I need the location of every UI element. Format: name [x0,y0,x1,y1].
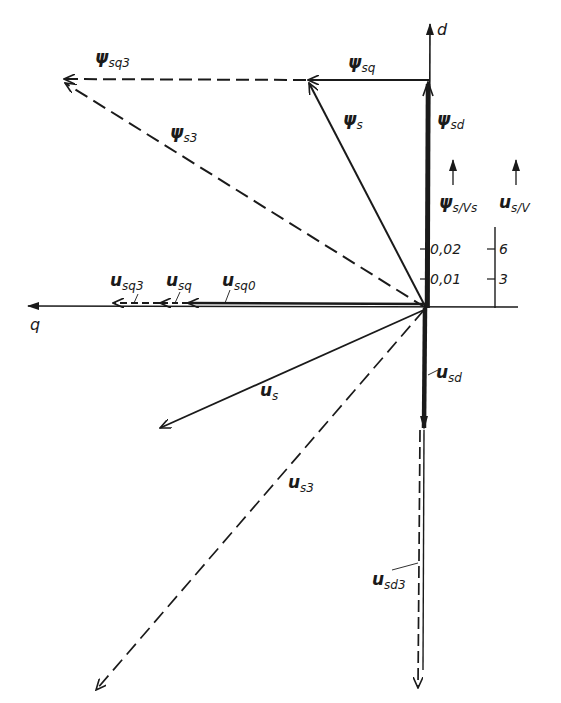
voltage-scale-label: us/V [499,192,530,215]
u-sd-vector [420,308,428,430]
flux-tick-001: 0,01 [430,271,461,287]
d-axis-label: d [437,20,448,39]
psi-s3-label: ψs3 [170,122,197,145]
vector-diagram: d q ψsq3 ψsq ψs3 ψs ψsd usq3 usq usq0 us… [0,0,561,703]
psi-sd-label: ψsd [437,109,465,132]
psi-s-vector [309,83,426,308]
voltage-tick-3: 3 [499,271,508,287]
flux-tick-002: 0,02 [430,241,461,257]
flux-scale [420,160,453,279]
u-sq-label: usq [166,270,192,293]
leader-lines [134,290,438,570]
psi-s-label: ψs [343,109,363,132]
u-s3-vector [96,310,424,690]
q-axis [28,306,518,307]
voltage-tick-6: 6 [499,241,508,257]
u-s-label: us [260,380,278,403]
u-s-vector [160,309,426,428]
u-sq3-label: usq3 [110,270,144,293]
psi-sq3-vector [64,79,306,80]
psi-sq-label: ψsq [348,52,376,75]
u-s3-label: us3 [288,472,314,495]
psi-sq3-label: ψsq3 [95,47,130,70]
u-sq0-label: usq0 [222,270,256,293]
u-sd3-label: usd3 [372,569,406,592]
u-sd3-vector [418,430,424,688]
flux-scale-label: ψs/Vs [439,192,477,215]
q-axis-label: q [30,315,40,334]
u-sd-label: usd [436,362,462,385]
u-sq0-vector [188,303,426,304]
